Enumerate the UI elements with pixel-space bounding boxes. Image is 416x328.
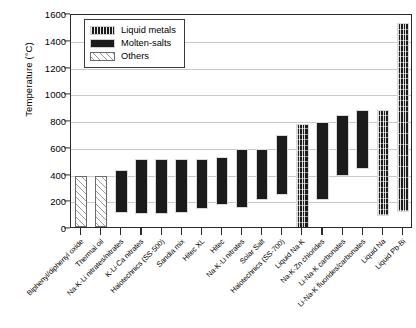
gridline (71, 69, 411, 70)
y-tick-label: 800 (22, 116, 66, 127)
bar (336, 115, 348, 175)
bar (356, 110, 368, 169)
y-tick-label: 1600 (22, 9, 66, 20)
y-tick-label: 200 (22, 196, 66, 207)
legend-item: Molten-salts (90, 37, 176, 50)
y-tick-label: 1000 (22, 89, 66, 100)
legend-swatch-icon (90, 39, 115, 48)
y-tick-label: 1400 (22, 35, 66, 46)
legend-swatch-icon (90, 52, 115, 61)
bar (216, 157, 228, 204)
bar (256, 149, 268, 199)
y-tick-label: 600 (22, 142, 66, 153)
legend-item: Liquid metals (90, 24, 176, 37)
chart-figure: Temperature (°C) 02004006008001000120014… (0, 0, 416, 328)
legend-label: Others (121, 52, 149, 61)
legend-swatch-icon (90, 26, 115, 35)
bar (236, 149, 248, 207)
legend-item: Others (90, 50, 176, 63)
gridline (71, 95, 411, 96)
y-tick-label: 0 (22, 223, 66, 234)
y-tick-label: 1200 (22, 62, 66, 73)
legend-label: Molten-salts (121, 39, 171, 48)
bar (397, 23, 409, 212)
y-tick-label: 400 (22, 169, 66, 180)
legend-label: Liquid metals (121, 26, 176, 35)
bar (276, 135, 288, 195)
bar (75, 176, 87, 227)
chart-legend: Liquid metalsMolten-saltsOthers (84, 19, 185, 68)
